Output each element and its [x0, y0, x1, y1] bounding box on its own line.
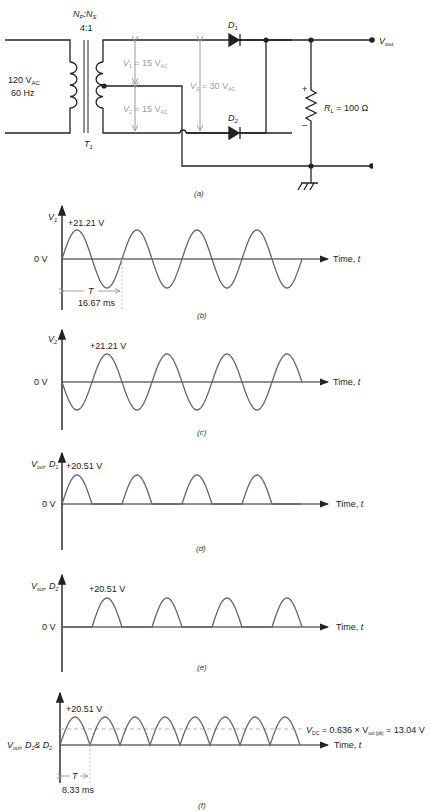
zero-label-d: 0 V [42, 499, 56, 509]
ylabel-f: Vout, D1& D2 [7, 740, 52, 751]
peak-label-e: +20.51 V [89, 584, 125, 594]
center-tap-node [101, 83, 106, 88]
diode-d2-icon [229, 127, 239, 139]
turns-ratio-label: NP:NS [73, 9, 97, 20]
peak-label-c: +21.21 V [90, 341, 126, 351]
vs-label: VS = 30 VAC [190, 81, 235, 92]
caption-b: (b) [197, 311, 207, 320]
ylabel-b: V1 [48, 212, 57, 223]
caption-c: (c) [197, 428, 207, 437]
center-tap-wire [104, 86, 402, 166]
peak-label-b: +21.21 V [68, 218, 104, 228]
transformer-name: T1 [84, 139, 93, 150]
load-minus: – [302, 120, 307, 130]
ylabel-e: Vout, D2 [31, 581, 58, 592]
zero-label-b: 0 V [34, 254, 48, 264]
time-axis-label-e: Time, t [336, 622, 364, 632]
d1-label: D1 [228, 20, 238, 31]
source-top-wire [5, 40, 70, 62]
caption-f: (f) [198, 801, 206, 810]
ground-icon [298, 166, 318, 190]
caption-d: (d) [196, 544, 206, 553]
load-plus: + [302, 84, 307, 94]
time-axis-label-f: Time, t [334, 740, 362, 750]
turns-ratio-value: 4:1 [80, 23, 93, 33]
resistor-icon [306, 40, 316, 166]
source-voltage-label: 120 VAC [8, 75, 41, 86]
vout-label: Vout [379, 36, 394, 47]
period-value-f: 8.33 ms [62, 785, 95, 795]
v2-label: V2 = 15 VAC [123, 104, 168, 115]
v1-label: V1 = 15 VAC [123, 58, 168, 69]
peak-label-f: +20.51 V [66, 704, 102, 714]
peak-label-d: +20.51 V [66, 461, 102, 471]
ylabel-d: Vout, D1 [31, 459, 58, 470]
caption-a: (a) [194, 189, 204, 198]
period-value-b: 16.67 ms [78, 298, 116, 308]
caption-e: (e) [197, 663, 207, 672]
ylabel-c: V2 [48, 334, 58, 345]
source-bottom-wire [5, 108, 70, 133]
time-axis-label-b: Time, t [333, 254, 361, 264]
load-label: RL = 100 Ω [324, 103, 369, 114]
time-axis-label-c: Time, t [333, 377, 361, 387]
figure-canvas: 120 VAC 60 Hz NP:NS 4:1 T1 V1 = 15 VAC V… [0, 0, 430, 812]
time-axis-label-d: Time, t [336, 499, 364, 509]
primary-coil-icon [70, 62, 77, 108]
d2-label: D2 [228, 113, 239, 124]
source-frequency-label: 60 Hz [11, 88, 35, 98]
diode-d1-icon [229, 34, 239, 46]
zero-label-e: 0 V [42, 622, 56, 632]
dc-level-label: VDC = 0.636 × Vout (pk) = 13.04 V [306, 725, 425, 736]
zero-label-c: 0 V [34, 377, 48, 387]
vout-terminal [369, 37, 375, 43]
